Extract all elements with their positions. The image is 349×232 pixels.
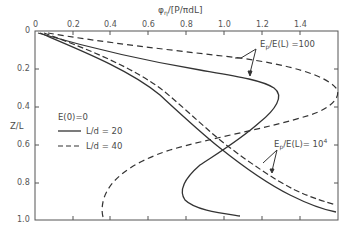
legend-label-solid: L/d = 20 [86, 127, 122, 136]
legend-title: E(0)=0 [58, 113, 88, 122]
series-ld20-ep100 [38, 33, 279, 216]
y-tick-label-0.8: 0.8 [17, 179, 30, 187]
annotation-arrows-10e4 [263, 150, 277, 173]
annotation-ep-100: Ep/E(L) =100 [260, 40, 315, 50]
chart-plot [0, 0, 349, 232]
legend-label-dashed: L/d = 40 [86, 142, 122, 151]
plot-frame [35, 31, 338, 220]
y-ticks [35, 69, 39, 183]
ann1-rest: /E(L) =100 [269, 39, 315, 49]
annotation-ep-10e4: Ep/E(L)= 104 [274, 138, 327, 150]
x-tick-label-0.6: 0.6 [142, 21, 155, 29]
annotation-arrows-100 [235, 49, 256, 76]
ann2-rest: /E(L)= 10 [283, 139, 323, 149]
y-tick-label-0: 0 [25, 27, 30, 35]
x-ticks [73, 31, 300, 35]
y-tick-label-1.0: 1.0 [17, 216, 30, 224]
x-ticks-bottom [73, 216, 300, 220]
x-axis-title: φη/[P/πdL] [158, 6, 202, 16]
x-tick-label-1.0: 1.0 [218, 21, 231, 29]
x-tick-label-0: 0 [33, 21, 38, 29]
x-tick-label-0.8: 0.8 [180, 21, 193, 29]
x-tick-label-0.4: 0.4 [104, 21, 117, 29]
x-tick-label-1.4: 1.4 [294, 21, 307, 29]
x-tick-label-1.2: 1.2 [256, 21, 269, 29]
ann2-sup: 4 [323, 137, 327, 144]
y-tick-label-0.6: 0.6 [17, 141, 30, 149]
series-ld20-ep10e4 [40, 33, 336, 212]
x-axis-title-rest: /[P/πdL] [168, 5, 203, 15]
y-tick-label-0.2: 0.2 [17, 65, 30, 73]
y-tick-label-0.4: 0.4 [17, 103, 30, 111]
y-axis-title: Z/L [10, 122, 23, 131]
x-tick-label-0.2: 0.2 [67, 21, 80, 29]
